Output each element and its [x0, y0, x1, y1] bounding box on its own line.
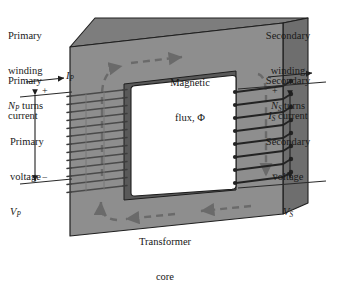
ip-subscript: P — [70, 75, 74, 83]
secondary-voltage-symbol: VS — [238, 206, 338, 219]
magnetic-flux-label: Magnetic flux, Φ — [142, 53, 238, 135]
primary-minus-sign: − — [42, 172, 48, 183]
secondary-plus-sign: + — [272, 85, 278, 96]
secondary-voltage-label: Secondary voltage VS — [238, 112, 338, 230]
transformer-core-label: Transformer core — [110, 212, 220, 284]
transformer-core-line2: core — [110, 271, 220, 283]
primary-voltage-symbol: VP — [10, 206, 44, 219]
primary-voltage-line2: voltage — [10, 171, 44, 183]
secondary-current-line1: Secondary — [238, 75, 338, 87]
secondary-voltage-line1: Secondary — [238, 136, 338, 148]
vp-subscript: P — [16, 211, 20, 219]
secondary-winding-line1: Secondary — [238, 30, 338, 42]
vs-subscript: S — [289, 211, 293, 219]
primary-voltage-label: Primary voltage VP — [10, 112, 44, 230]
primary-winding-line1: Primary — [8, 30, 43, 42]
magnetic-flux-line2: flux, Φ — [142, 112, 238, 124]
primary-current-symbol: IP — [66, 70, 74, 83]
transformer-core-line1: Transformer — [110, 236, 220, 248]
primary-current-line1: Primary — [8, 75, 42, 87]
magnetic-flux-line1: Magnetic — [142, 77, 238, 89]
secondary-voltage-line2: voltage — [238, 171, 338, 183]
primary-voltage-line1: Primary — [10, 136, 44, 148]
primary-plus-sign: + — [42, 85, 48, 96]
secondary-minus-sign: − — [272, 169, 278, 180]
